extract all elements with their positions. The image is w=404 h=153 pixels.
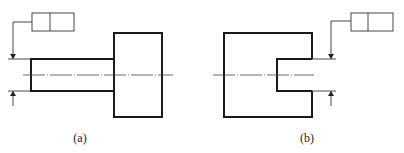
caption-b: (b) [300, 131, 314, 145]
extension-lines-b [312, 59, 336, 91]
leader-a [13, 22, 32, 106]
feature-control-frame-a [32, 13, 74, 31]
leader-b [331, 21, 351, 106]
feature-control-frame-b [351, 13, 393, 31]
panel-a: (a) [8, 13, 173, 145]
panel-b: (b) [213, 13, 393, 145]
caption-a: (a) [73, 131, 86, 145]
drawing-canvas: (a) (b) [0, 0, 404, 153]
